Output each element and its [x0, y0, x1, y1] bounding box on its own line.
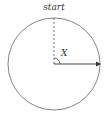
angle-arc — [54, 58, 60, 64]
angle-label: X — [60, 48, 68, 58]
start-label: start — [43, 2, 65, 12]
circle-diagram: start X — [0, 0, 106, 113]
